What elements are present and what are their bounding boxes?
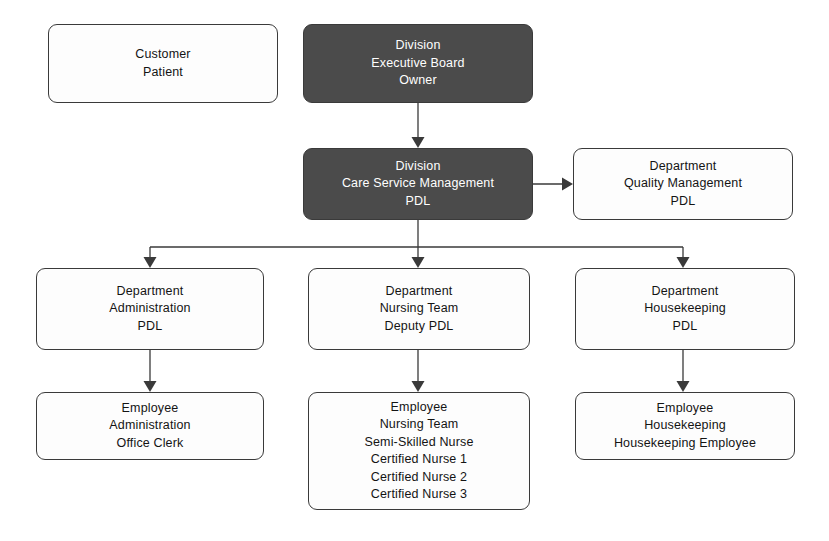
division-care-service-management-line: PDL (406, 193, 431, 211)
employee-housekeeping[interactable]: EmployeeHousekeepingHousekeeping Employe… (575, 392, 795, 460)
edge-department-nursing-team-to-employee-nursing-team-arrowhead-icon (412, 381, 425, 392)
edge-bus-to-department-housekeeping-arrowhead-icon (677, 257, 690, 268)
department-administration-line: PDL (138, 318, 163, 336)
edge-care-service-management-to-quality-management-arrowhead-icon (562, 178, 573, 191)
department-quality-management[interactable]: DepartmentQuality ManagementPDL (573, 148, 793, 220)
department-nursing-team[interactable]: DepartmentNursing TeamDeputy PDL (308, 268, 530, 350)
edge-bus-to-department-housekeeping (677, 247, 690, 268)
edge-department-housekeeping-to-employee-housekeeping (677, 350, 690, 392)
employee-housekeeping-line: Employee (657, 400, 714, 418)
employee-nursing-team-line: Nursing Team (380, 416, 459, 434)
employee-housekeeping-line: Housekeeping Employee (614, 435, 756, 453)
employee-administration[interactable]: EmployeeAdministrationOffice Clerk (36, 392, 264, 460)
customer-patient-line: Customer (135, 46, 190, 64)
edge-bus-to-department-nursing-team-arrowhead-icon (412, 257, 425, 268)
edge-department-housekeeping-to-employee-housekeeping-arrowhead-icon (677, 381, 690, 392)
division-care-service-management-line: Care Service Management (342, 175, 494, 193)
edge-bus-to-department-administration-arrowhead-icon (144, 257, 157, 268)
edge-executive-board-to-care-service-management (412, 103, 425, 148)
department-housekeeping-line: PDL (673, 318, 698, 336)
department-housekeeping[interactable]: DepartmentHousekeepingPDL (575, 268, 795, 350)
customer-patient-line: Patient (143, 64, 183, 82)
employee-housekeeping-line: Housekeeping (644, 417, 726, 435)
employee-nursing-team[interactable]: EmployeeNursing TeamSemi-Skilled NurseCe… (308, 392, 530, 510)
division-executive-board-line: Owner (399, 72, 437, 90)
department-administration-line: Administration (109, 300, 190, 318)
department-quality-management-line: PDL (671, 193, 696, 211)
employee-nursing-team-line: Certified Nurse 2 (371, 469, 467, 487)
employee-nursing-team-line: Certified Nurse 1 (371, 451, 467, 469)
customer-patient[interactable]: CustomerPatient (48, 24, 278, 103)
department-nursing-team-line: Deputy PDL (385, 318, 454, 336)
edge-care-service-management-to-quality-management (533, 178, 573, 191)
division-care-service-management-line: Division (396, 158, 441, 176)
department-administration[interactable]: DepartmentAdministrationPDL (36, 268, 264, 350)
division-care-service-management[interactable]: DivisionCare Service ManagementPDL (303, 148, 533, 220)
division-executive-board[interactable]: DivisionExecutive BoardOwner (303, 24, 533, 103)
employee-nursing-team-line: Semi-Skilled Nurse (365, 434, 474, 452)
edge-bus-to-department-administration (144, 247, 157, 268)
division-executive-board-line: Division (396, 37, 441, 55)
employee-nursing-team-line: Employee (391, 399, 448, 417)
employee-administration-line: Employee (122, 400, 179, 418)
department-quality-management-line: Department (650, 158, 717, 176)
department-nursing-team-line: Department (386, 283, 453, 301)
edge-executive-board-to-care-service-management-arrowhead-icon (412, 137, 425, 148)
employee-administration-line: Administration (109, 417, 190, 435)
edge-department-administration-to-employee-administration-arrowhead-icon (144, 381, 157, 392)
department-quality-management-line: Quality Management (624, 175, 742, 193)
edge-bus-to-department-nursing-team (412, 247, 425, 268)
edge-department-administration-to-employee-administration (144, 350, 157, 392)
employee-nursing-team-line: Certified Nurse 3 (371, 486, 467, 504)
org-chart-canvas: CustomerPatientDivisionExecutive BoardOw… (0, 0, 829, 541)
employee-administration-line: Office Clerk (117, 435, 184, 453)
department-nursing-team-line: Nursing Team (380, 300, 459, 318)
department-administration-line: Department (117, 283, 184, 301)
division-executive-board-line: Executive Board (371, 55, 464, 73)
department-housekeeping-line: Housekeeping (644, 300, 726, 318)
department-housekeeping-line: Department (652, 283, 719, 301)
edge-department-nursing-team-to-employee-nursing-team (412, 350, 425, 392)
